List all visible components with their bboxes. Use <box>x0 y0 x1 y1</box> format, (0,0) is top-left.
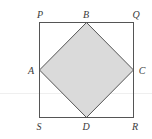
inner-square-abcd <box>40 23 134 118</box>
vertex-label-d: D <box>82 122 89 132</box>
vertex-label-b: B <box>83 10 89 20</box>
vertex-label-r: R <box>132 122 138 132</box>
vertex-label-a: A <box>28 66 34 76</box>
vertex-label-s: S <box>37 122 42 132</box>
geometry-diagram: P B Q A C S D R <box>0 0 152 139</box>
diagram-canvas <box>0 0 152 139</box>
vertex-label-c: C <box>139 66 146 76</box>
vertex-label-q: Q <box>132 10 139 20</box>
vertex-label-p: P <box>37 10 43 20</box>
